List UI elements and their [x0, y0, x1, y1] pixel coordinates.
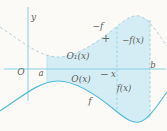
- f-of-x-label: f(x): [116, 83, 132, 93]
- diagram-canvas: y O a x b −f + −f(x) O₁(x) O(x) − f(x) f: [0, 0, 167, 131]
- point-a-label: a: [38, 68, 43, 78]
- math-diagram: y O a x b −f + −f(x) O₁(x) O(x) − f(x) f: [0, 0, 167, 131]
- minus-sign: −: [100, 68, 109, 80]
- y-axis-label: y: [30, 12, 37, 22]
- point-b-label: b: [150, 60, 155, 70]
- neg-f-of-x-label: −f(x): [122, 35, 144, 45]
- origin-label: O: [17, 67, 25, 77]
- area-lower-label: O(x): [71, 74, 91, 84]
- curve-neg-f-label: −f: [93, 21, 106, 31]
- plus-sign: +: [102, 32, 111, 44]
- point-x-label: x: [111, 69, 116, 79]
- area-upper-label: O₁(x): [66, 51, 90, 61]
